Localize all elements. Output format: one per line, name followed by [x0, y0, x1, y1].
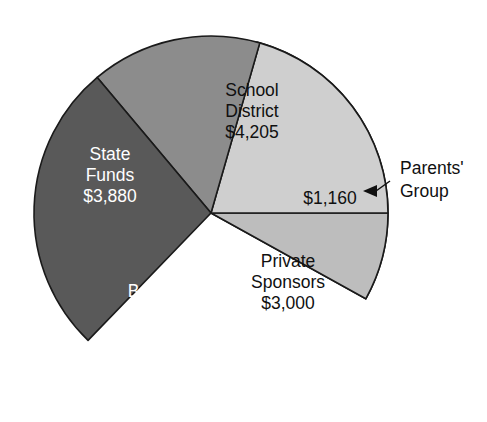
- slice-label-school-district-name-line-2: District: [225, 101, 279, 121]
- slice-label-private-sponsors-name-line-1: Private: [261, 251, 315, 271]
- pie-chart-canvas: SchoolDistrict$4,205$1,160PrivateSponsor…: [0, 0, 487, 422]
- slice-label-school-district-value: $4,205: [225, 122, 279, 142]
- slice-label-parents-group-value: $1,160: [303, 188, 357, 208]
- slice-label-state-funds-name-line-2: Funds: [86, 165, 135, 185]
- slice-label-state-funds-value: $3,880: [83, 186, 137, 206]
- slice-label-private-sponsors-name-line-2: Sponsors: [251, 272, 325, 292]
- slice-label-basketball-team-name-line-1: Basketball: [128, 281, 209, 301]
- slice-label-school-district-name-line-1: School: [225, 80, 279, 100]
- slice-label-state-funds-name-line-1: State: [90, 144, 131, 164]
- callout-label-line-2: Group: [400, 181, 449, 201]
- pie-chart-figure: SchoolDistrict$4,205$1,160PrivateSponsor…: [0, 0, 487, 422]
- slice-label-basketball-team-value: $2,255: [141, 323, 195, 343]
- slice-label-basketball-team-name-line-2: Team: [147, 302, 190, 322]
- slice-label-private-sponsors-value: $3,000: [261, 293, 315, 313]
- callout-label-line-1: Parents': [400, 158, 464, 178]
